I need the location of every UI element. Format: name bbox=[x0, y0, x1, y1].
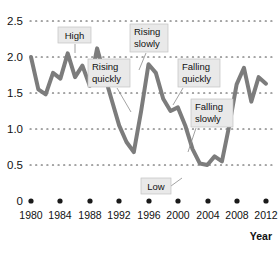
callout-falling-slowly-line2: slowly bbox=[195, 113, 221, 124]
callout-low: Low bbox=[141, 178, 171, 194]
y-tick-label: 2.0 bbox=[7, 51, 23, 63]
callout-rising-slowly-line1: Rising bbox=[134, 26, 160, 37]
x-tick-dot bbox=[263, 198, 268, 203]
x-tick-label: 2012 bbox=[254, 209, 278, 221]
x-tick-dot bbox=[28, 198, 33, 203]
leader-line-rising-slowly bbox=[139, 53, 146, 70]
callout-rising-quickly-line1: Rising bbox=[92, 61, 118, 72]
callout-falling-slowly: Falling slowly bbox=[191, 99, 233, 127]
callout-falling-quickly: Falling quickly bbox=[178, 59, 220, 87]
x-axis-tick-dots bbox=[28, 198, 268, 203]
line-chart: 2.5 2.0 1.5 1.0 0.5 0 1980 1984 1988 199… bbox=[0, 0, 279, 255]
x-tick-label: 1980 bbox=[19, 209, 43, 221]
callout-falling-slowly-line1: Falling bbox=[195, 101, 223, 112]
callout-high: High bbox=[58, 27, 91, 43]
callout-high-label: High bbox=[65, 30, 85, 41]
callout-low-label: Low bbox=[147, 181, 165, 192]
x-axis-title: Year bbox=[250, 230, 272, 242]
x-tick-dot bbox=[146, 198, 151, 203]
x-tick-label: 2004 bbox=[196, 209, 220, 221]
callout-rising-slowly: Rising slowly bbox=[130, 24, 168, 52]
y-tick-label: 0 bbox=[17, 195, 23, 207]
x-axis-labels: 1980 1984 1988 1992 1996 2000 2004 2008 … bbox=[19, 209, 278, 221]
y-tick-label: 0.5 bbox=[7, 159, 23, 171]
callout-rising-quickly-line2: quickly bbox=[92, 73, 121, 84]
x-tick-dot bbox=[57, 198, 62, 203]
leader-line-low bbox=[171, 178, 182, 186]
x-tick-label: 1996 bbox=[137, 209, 161, 221]
x-tick-label: 2000 bbox=[166, 209, 190, 221]
x-tick-dot bbox=[175, 198, 180, 203]
x-tick-label: 1992 bbox=[107, 209, 131, 221]
x-tick-dot bbox=[87, 198, 92, 203]
x-tick-dot bbox=[205, 198, 210, 203]
y-tick-label: 1.0 bbox=[7, 123, 23, 135]
callout-rising-quickly: Rising quickly bbox=[88, 59, 130, 87]
x-tick-label: 2008 bbox=[225, 209, 249, 221]
callout-rising-slowly-line2: slowly bbox=[134, 38, 160, 49]
y-tick-label: 2.5 bbox=[7, 15, 23, 27]
callout-falling-quickly-line1: Falling bbox=[182, 61, 210, 72]
x-tick-dot bbox=[234, 198, 239, 203]
callout-falling-quickly-line2: quickly bbox=[182, 73, 211, 84]
leader-line-falling-quickly bbox=[173, 88, 183, 105]
x-tick-dot bbox=[116, 198, 121, 203]
x-tick-label: 1984 bbox=[48, 209, 72, 221]
leader-line-rising-quickly bbox=[117, 88, 131, 112]
chart-svg: 2.5 2.0 1.5 1.0 0.5 0 1980 1984 1988 199… bbox=[0, 0, 279, 255]
x-tick-label: 1988 bbox=[78, 209, 102, 221]
y-tick-label: 1.5 bbox=[7, 87, 23, 99]
y-axis-labels: 2.5 2.0 1.5 1.0 0.5 0 bbox=[7, 15, 23, 207]
